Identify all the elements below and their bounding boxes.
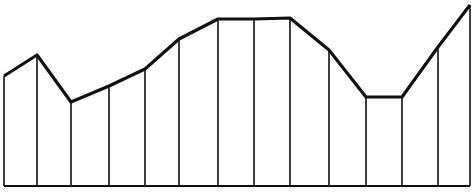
series-line: [4, 5, 470, 102]
line-chart: [0, 0, 471, 196]
